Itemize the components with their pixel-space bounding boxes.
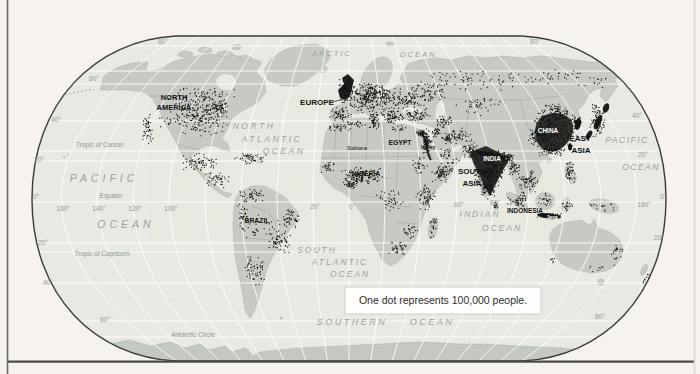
map-body: [32, 36, 666, 368]
tasmania: [598, 279, 604, 285]
legend-box: [345, 287, 541, 314]
map-figure-page: 80° 80° 60° 40° 20° 0° 20° 40° 60° 40° 2…: [0, 0, 700, 374]
hudson-bay: [216, 74, 236, 90]
world-population-dot-map: 80° 80° 60° 40° 20° 0° 20° 40° 60° 40° 2…: [0, 0, 700, 374]
hawaii: [67, 154, 68, 155]
hawaii: [63, 156, 65, 158]
legend: One dot represents 100,000 people.: [345, 287, 541, 314]
arctic-island: [217, 51, 233, 57]
svalbard: [386, 42, 394, 46]
hainan: [547, 158, 552, 163]
falklands: [280, 317, 282, 319]
